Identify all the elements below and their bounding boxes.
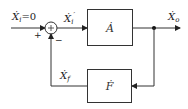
forward-block-label: Ȧ: [88, 21, 132, 34]
feedback-block-label: Ḟ: [88, 80, 131, 93]
output-label: Ẋo: [168, 12, 179, 24]
plus-sign: +: [34, 31, 42, 40]
input-label: Ẋi=0: [12, 12, 36, 24]
forward-block-a: Ȧ: [87, 9, 133, 46]
minus-sign: −: [55, 36, 63, 45]
feedback-signal-label: Ẋf: [60, 71, 70, 83]
feedback-block-f: Ḟ: [87, 69, 132, 103]
error-signal-label: Ẋi′: [64, 12, 75, 26]
